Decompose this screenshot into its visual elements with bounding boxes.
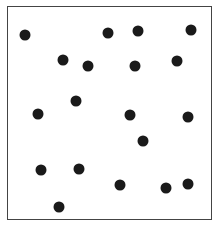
dot [74, 164, 85, 175]
dot [103, 28, 114, 39]
dot [71, 96, 82, 107]
dot [130, 61, 141, 72]
dot [36, 165, 47, 176]
dot [133, 26, 144, 37]
dot [58, 55, 69, 66]
dot [186, 25, 197, 36]
dot [161, 183, 172, 194]
dot [83, 61, 94, 72]
dot [138, 136, 149, 147]
dot [20, 30, 31, 41]
dot [115, 180, 126, 191]
dot [33, 109, 44, 120]
dot [125, 110, 136, 121]
dot [172, 56, 183, 67]
dot [54, 202, 65, 213]
dot [183, 112, 194, 123]
dot [183, 179, 194, 190]
